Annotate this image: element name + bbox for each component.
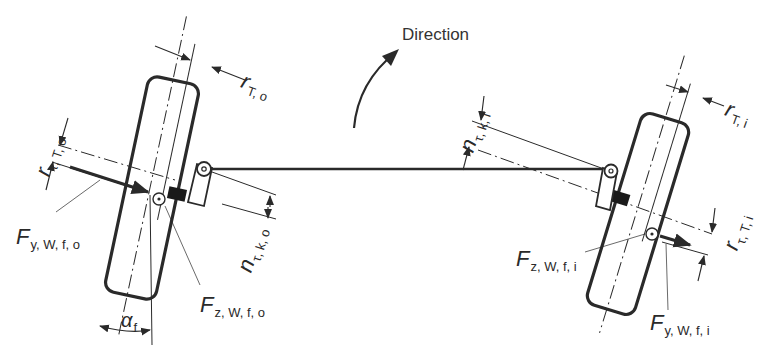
label-F-z-W-f-o: Fz, W, f, o (200, 294, 265, 316)
label-F-y-W-f-o: Fy, W, f, o (16, 226, 80, 248)
lateral-force-arrow-outer (70, 167, 148, 192)
inner-contact-point-icon (646, 228, 658, 240)
direction-label: Direction (402, 26, 469, 43)
direction-arrow (354, 49, 399, 128)
steering-arm-outer (167, 162, 212, 206)
outer-contact-point-icon (153, 193, 165, 205)
label-alpha-f: αf (121, 310, 137, 330)
label-F-y-W-f-i: Fy, W, f, i (650, 312, 710, 334)
lateral-force-arrow-inner (660, 236, 690, 245)
steering-diagram (0, 0, 763, 358)
outer-reference-line (150, 195, 152, 345)
label-F-z-W-f-i: Fz, W, f, i (516, 248, 577, 270)
